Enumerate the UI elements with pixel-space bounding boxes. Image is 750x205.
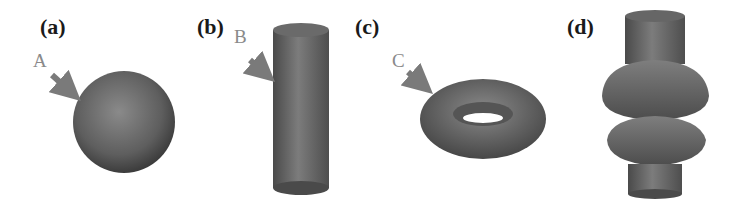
arrow-c-icon [408,72,424,86]
callout-c: C [392,50,405,72]
panel-label-d: (d) [567,14,594,40]
panel-label-a: (a) [40,14,66,40]
panel-label-b: (b) [197,14,224,40]
callout-a: A [33,50,47,72]
callout-b: B [234,26,247,48]
torus-shape [420,79,546,159]
panel-label-c: (c) [355,14,379,40]
compound-solid-shape [602,10,709,199]
cylinder-shape [273,23,329,195]
arrow-a-icon [52,75,72,93]
arrow-b-icon [250,60,266,74]
sphere-shape [73,71,175,173]
